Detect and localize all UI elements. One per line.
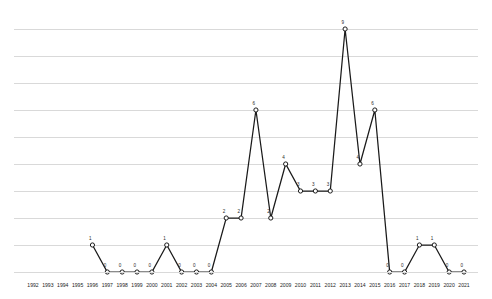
data-point-label: 0 xyxy=(148,264,151,269)
x-axis-tick-label: 2010 xyxy=(295,283,306,288)
x-axis-tick-label: 2011 xyxy=(310,283,321,288)
x-axis-tick-label: 1997 xyxy=(102,283,113,288)
data-point-marker xyxy=(284,162,288,166)
data-point-label: 2 xyxy=(238,210,241,215)
x-axis-tick-label: 2016 xyxy=(384,283,395,288)
series-line xyxy=(92,29,464,272)
x-axis-tick-label: 1995 xyxy=(72,283,83,288)
data-point-marker xyxy=(224,216,228,220)
data-point-label: 3 xyxy=(312,183,315,188)
x-axis-tick-label: 2000 xyxy=(146,283,157,288)
data-point-label: 2 xyxy=(267,210,270,215)
x-axis-tick-labels: 1992199319941995199619971998199920002001… xyxy=(14,283,478,293)
x-axis-tick-label: 2012 xyxy=(325,283,336,288)
data-point-marker xyxy=(373,108,377,112)
x-axis-tick-label: 2001 xyxy=(161,283,172,288)
data-point-label: 0 xyxy=(208,264,211,269)
x-axis-tick-label: 1993 xyxy=(42,283,53,288)
x-axis-tick-label: 2019 xyxy=(429,283,440,288)
x-axis-tick-label: 1999 xyxy=(131,283,142,288)
data-point-marker xyxy=(90,243,94,247)
x-axis-tick-label: 2020 xyxy=(443,283,454,288)
x-axis-tick-label: 2006 xyxy=(235,283,246,288)
series-markers xyxy=(90,27,466,274)
data-point-label: 1 xyxy=(163,237,166,242)
x-axis-tick-label: 2017 xyxy=(399,283,410,288)
data-point-label: 0 xyxy=(401,264,404,269)
data-point-marker xyxy=(328,189,332,193)
data-point-marker xyxy=(417,243,421,247)
data-point-marker xyxy=(313,189,317,193)
data-point-marker xyxy=(358,162,362,166)
x-axis-tick-label: 2002 xyxy=(176,283,187,288)
data-point-label: 0 xyxy=(104,264,107,269)
data-point-label: 1 xyxy=(416,237,419,242)
x-axis-tick-label: 2015 xyxy=(369,283,380,288)
data-point-marker xyxy=(165,243,169,247)
data-point-marker xyxy=(343,27,347,31)
x-axis-tick-label: 2021 xyxy=(458,283,469,288)
data-point-label: 0 xyxy=(193,264,196,269)
data-point-label: 3 xyxy=(327,183,330,188)
data-point-marker xyxy=(298,189,302,193)
x-axis-tick-label: 2008 xyxy=(265,283,276,288)
x-axis-tick-label: 2014 xyxy=(354,283,365,288)
baseline-gridline xyxy=(14,272,478,273)
data-point-label: 6 xyxy=(252,102,255,107)
data-point-label: 4 xyxy=(282,156,285,161)
data-point-label: 0 xyxy=(461,264,464,269)
data-point-label: 6 xyxy=(371,102,374,107)
x-axis-tick-label: 1994 xyxy=(57,283,68,288)
data-point-marker xyxy=(239,216,243,220)
x-axis-tick-label: 1998 xyxy=(117,283,128,288)
data-point-label: 1 xyxy=(89,237,92,242)
x-axis-tick-label: 1992 xyxy=(27,283,38,288)
data-point-label: 3 xyxy=(297,183,300,188)
data-point-marker xyxy=(269,216,273,220)
x-axis-tick-label: 2005 xyxy=(221,283,232,288)
x-axis-tick-label: 2003 xyxy=(191,283,202,288)
x-axis-tick-label: 2009 xyxy=(280,283,291,288)
data-point-label: 1 xyxy=(431,237,434,242)
data-point-marker xyxy=(254,108,258,112)
data-point-label: 0 xyxy=(446,264,449,269)
line-chart: 10000100022624333946001100 1992199319941… xyxy=(0,0,492,299)
x-axis-tick-label: 1996 xyxy=(87,283,98,288)
x-axis-tick-label: 2018 xyxy=(414,283,425,288)
plot-area: 10000100022624333946001100 xyxy=(14,14,478,272)
series-layer xyxy=(14,14,478,272)
x-axis-tick-label: 2004 xyxy=(206,283,217,288)
data-point-marker xyxy=(432,243,436,247)
data-point-label: 0 xyxy=(119,264,122,269)
data-point-label: 9 xyxy=(342,21,345,26)
data-point-label: 0 xyxy=(386,264,389,269)
x-axis-tick-label: 2013 xyxy=(339,283,350,288)
x-axis-tick-label: 2007 xyxy=(250,283,261,288)
data-point-label: 2 xyxy=(223,210,226,215)
data-point-label: 0 xyxy=(134,264,137,269)
data-point-label: 4 xyxy=(356,156,359,161)
data-point-label: 0 xyxy=(178,264,181,269)
